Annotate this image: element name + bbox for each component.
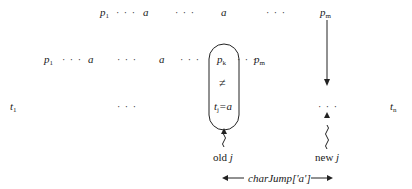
text-char-tj: tj=a bbox=[214, 101, 232, 114]
text-tn: tn bbox=[390, 101, 397, 114]
up-arrow-old-j-icon bbox=[221, 128, 227, 134]
pattern-top-p1: p1 bbox=[100, 7, 109, 20]
ellipsis: · · · bbox=[175, 8, 195, 18]
ellipsis: · · · bbox=[180, 55, 200, 65]
char-jump-label: charJump['a'] bbox=[248, 173, 311, 184]
old-j-label: old j bbox=[213, 152, 233, 163]
ellipsis: · · · bbox=[117, 55, 137, 65]
ellipsis: · · · bbox=[117, 102, 137, 112]
pattern-shifted-pk: pk bbox=[217, 54, 226, 67]
ellipsis: · · · bbox=[116, 8, 136, 18]
right-arrow-icon bbox=[327, 175, 333, 181]
text-t1: t1 bbox=[10, 101, 17, 114]
left-arrow-icon bbox=[222, 175, 228, 181]
ellipsis: · · · bbox=[62, 55, 82, 65]
new-j-label: new j bbox=[315, 152, 339, 163]
diagram-lines bbox=[0, 0, 412, 189]
pattern-shifted-a2: a bbox=[159, 54, 165, 65]
pattern-top-a2: a bbox=[221, 7, 227, 18]
pattern-shifted-pm: pm bbox=[254, 54, 265, 67]
pattern-top-a1: a bbox=[143, 7, 149, 18]
down-arrow-icon bbox=[324, 79, 330, 86]
not-equal-sign: ≠ bbox=[219, 77, 226, 89]
ellipsis: · · · bbox=[318, 102, 338, 112]
pattern-shifted-p1: p1 bbox=[44, 54, 53, 67]
ellipsis: · · · bbox=[266, 8, 286, 18]
pattern-shifted-a1: a bbox=[88, 54, 94, 65]
pattern-top-pm: pm bbox=[320, 7, 331, 20]
up-arrow-new-j-icon bbox=[324, 112, 330, 118]
